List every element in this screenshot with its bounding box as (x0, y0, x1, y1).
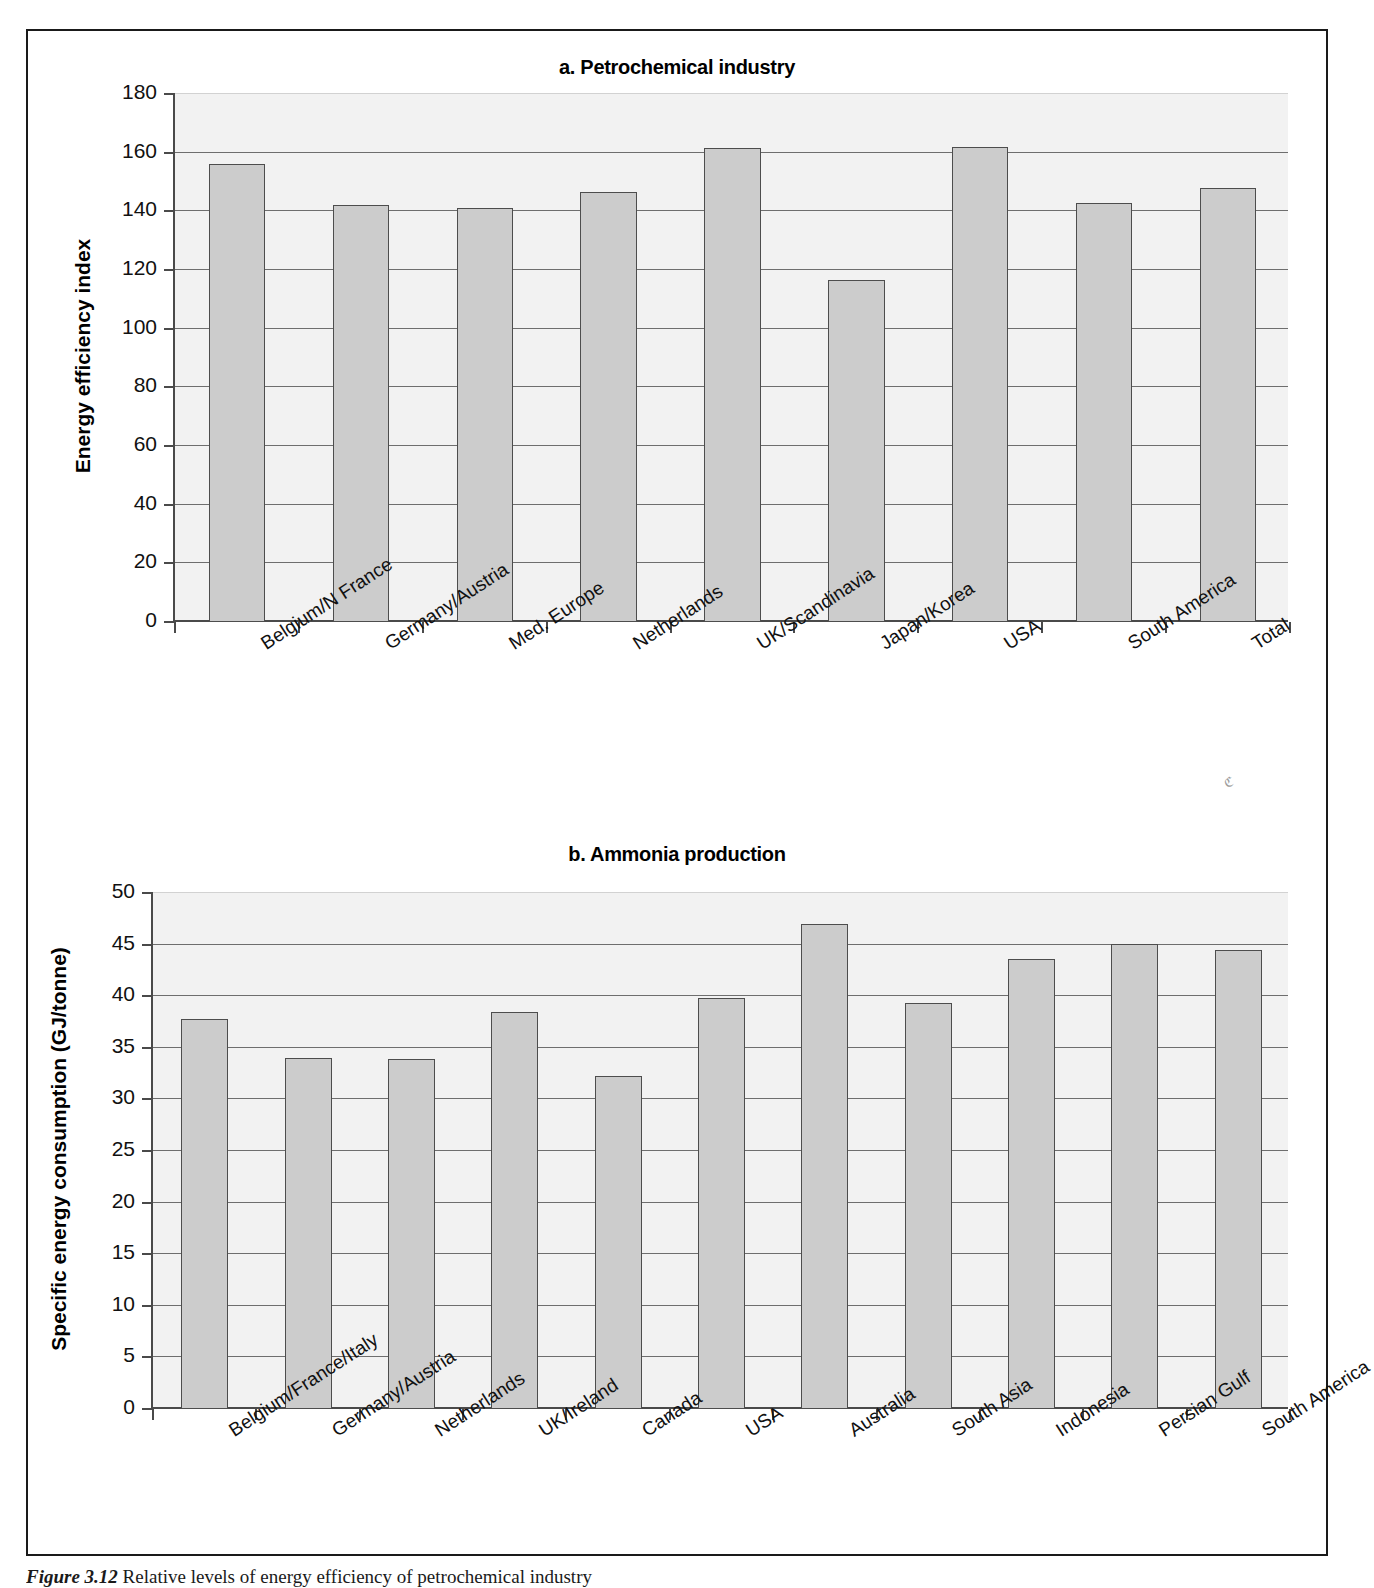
y-axis-tick (164, 445, 175, 447)
bar (388, 1059, 435, 1409)
y-axis-tick (164, 562, 175, 564)
x-axis-tick-label: USA (1000, 636, 1012, 654)
x-axis-tick-label: South America (1124, 636, 1136, 654)
chart-b-y-axis-title: Specific energy consumption (GJ/tonne) (47, 889, 71, 1409)
x-axis-tick (174, 622, 176, 633)
bar (285, 1058, 332, 1409)
y-axis-tick-label: 120 (95, 256, 157, 280)
bar (905, 1003, 952, 1409)
chart-b-title: b. Ammonia production (28, 843, 1326, 866)
y-axis-tick-label: 50 (73, 879, 135, 903)
x-axis-tick-label: Australia (845, 1423, 857, 1441)
x-axis-tick-label: South Asia (948, 1423, 960, 1441)
bar (952, 147, 1008, 622)
y-axis-tick-label: 180 (95, 80, 157, 104)
x-axis-tick-label: Germany/Austria (328, 1423, 340, 1441)
bar (1076, 203, 1132, 622)
gridline (153, 892, 1288, 893)
y-axis-tick (142, 995, 153, 997)
chart-a-y-axis-title: Energy efficiency index (71, 196, 95, 516)
figure-caption-number: Figure 3.12 (26, 1566, 118, 1587)
figure-frame: a. Petrochemical industry Energy efficie… (26, 29, 1328, 1556)
y-axis-tick-label: 15 (73, 1240, 135, 1264)
y-axis-tick (142, 944, 153, 946)
x-axis-tick-label: Canada (638, 1423, 650, 1441)
x-axis-tick-label: Germany/Austria (381, 636, 393, 654)
x-axis-tick-label: Med. Europe (505, 636, 517, 654)
bar (595, 1076, 642, 1409)
bar (491, 1012, 538, 1409)
x-axis-tick-label: Netherlands (629, 636, 641, 654)
x-axis-tick-label: UK/Scandinavia (753, 636, 765, 654)
y-axis-tick (164, 386, 175, 388)
chart-b-plot-area (151, 893, 1288, 1409)
y-axis-tick (142, 1047, 153, 1049)
y-axis-tick-label: 80 (95, 373, 157, 397)
bar (1200, 188, 1256, 622)
x-axis-tick (152, 1409, 154, 1420)
chart-a-title: a. Petrochemical industry (28, 56, 1326, 79)
y-axis-tick-label: 0 (73, 1395, 135, 1419)
y-axis-tick (164, 152, 175, 154)
y-axis-tick-label: 60 (95, 432, 157, 456)
y-axis-tick-label: 40 (95, 491, 157, 515)
y-axis-tick (164, 504, 175, 506)
x-axis-tick-label: Japan/Korea (876, 636, 888, 654)
bar (457, 208, 513, 622)
x-axis-tick-label: South America (1258, 1423, 1270, 1441)
y-axis-tick-label: 40 (73, 982, 135, 1006)
y-axis-tick (164, 328, 175, 330)
stray-pencil-mark: ℭ (1222, 774, 1236, 791)
y-axis-tick-label: 20 (95, 549, 157, 573)
bar (801, 924, 848, 1409)
chart-a-plot-area (173, 94, 1288, 622)
y-axis-tick (142, 1253, 153, 1255)
x-axis-tick-label: Persian Gulf (1155, 1423, 1167, 1441)
y-axis-tick (142, 1305, 153, 1307)
x-axis-tick-label: USA (742, 1423, 754, 1441)
y-axis-tick-label: 20 (73, 1189, 135, 1213)
figure-caption: Figure 3.12 Relative levels of energy ef… (26, 1566, 1336, 1588)
bar (1111, 944, 1158, 1409)
y-axis-tick (142, 1202, 153, 1204)
y-axis-tick-label: 35 (73, 1034, 135, 1058)
x-axis-tick-label: Belgium/N France (257, 636, 269, 654)
x-axis-tick-label: Indonesia (1052, 1423, 1064, 1441)
x-axis-tick-label: UK/Ireland (535, 1423, 547, 1441)
bar (1008, 959, 1055, 1409)
x-axis-tick-label: Netherlands (431, 1423, 443, 1441)
y-axis-tick-label: 30 (73, 1085, 135, 1109)
figure-caption-text: Relative levels of energy efficiency of … (123, 1566, 592, 1587)
y-axis-tick (142, 892, 153, 894)
y-axis-tick-label: 160 (95, 139, 157, 163)
bar (1215, 950, 1262, 1409)
y-axis-tick (142, 1098, 153, 1100)
y-axis-tick (164, 269, 175, 271)
y-axis-tick-label: 140 (95, 197, 157, 221)
bar (181, 1019, 228, 1409)
y-axis-tick-label: 5 (73, 1343, 135, 1367)
y-axis-tick-label: 10 (73, 1292, 135, 1316)
x-axis-tick-label: Total (1248, 636, 1260, 654)
x-axis-tick-label: Belgium/France/Italy (225, 1423, 237, 1441)
y-axis-tick (164, 210, 175, 212)
bar (698, 998, 745, 1409)
gridline (175, 93, 1288, 94)
bar (580, 192, 636, 622)
y-axis-tick (142, 1356, 153, 1358)
bar (704, 148, 760, 622)
y-axis-tick-label: 100 (95, 315, 157, 339)
y-axis-tick-label: 45 (73, 931, 135, 955)
y-axis-tick-label: 25 (73, 1137, 135, 1161)
y-axis-tick (142, 1150, 153, 1152)
y-axis-tick (164, 93, 175, 95)
y-axis-tick-label: 0 (95, 608, 157, 632)
bar (209, 164, 265, 622)
